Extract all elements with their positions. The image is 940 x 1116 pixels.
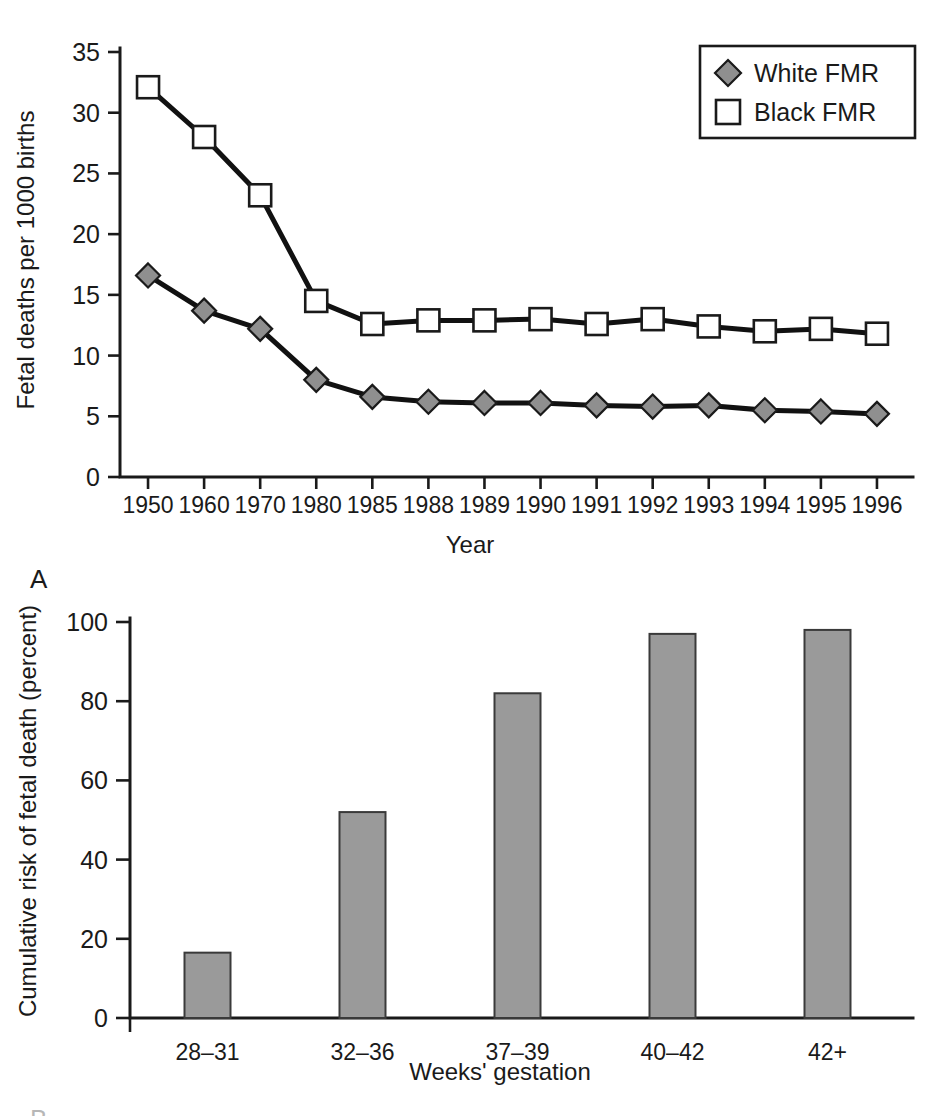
x-tick-label: 1996: [851, 492, 902, 518]
y-tick-label: 10: [72, 342, 100, 370]
bar-y-tick-label: 0: [94, 1004, 108, 1032]
data-point-black-fmr: [754, 320, 776, 342]
x-tick-label: 1993: [683, 492, 734, 518]
data-point-white-fmr: [809, 399, 833, 423]
bar-y-tick-label: 40: [80, 846, 108, 874]
data-point-black-fmr: [193, 126, 215, 148]
data-point-black-fmr: [249, 184, 271, 206]
x-tick-label: 1991: [571, 492, 622, 518]
data-point-black-fmr: [586, 313, 608, 335]
x-tick-label: 1989: [459, 492, 510, 518]
data-point-black-fmr: [642, 308, 664, 330]
data-point-white-fmr: [360, 385, 384, 409]
data-point-white-fmr: [697, 393, 721, 417]
series-line-white-fmr: [148, 275, 877, 414]
x-axis-title: Year: [446, 531, 495, 558]
bar-chart-svg: 02040608010028–3132–3637–3940–4242+ Week…: [0, 596, 940, 1112]
data-point-black-fmr: [361, 313, 383, 335]
bar-1: [185, 953, 231, 1018]
x-tick-label: 1994: [739, 492, 790, 518]
x-tick-label: 1950: [122, 492, 173, 518]
x-tick-label: 1992: [627, 492, 678, 518]
data-point-black-fmr: [530, 308, 552, 330]
y-tick-label: 15: [72, 281, 100, 309]
data-point-white-fmr: [865, 402, 889, 426]
y-tick-label: 0: [86, 463, 100, 491]
x-tick-label: 1990: [515, 492, 566, 518]
data-point-black-fmr: [137, 76, 159, 98]
line-chart-svg: 0510152025303519501960197019801985198819…: [0, 0, 940, 600]
y-tick-label: 30: [72, 99, 100, 127]
bar-x-tick-label: 32–36: [331, 1039, 395, 1065]
data-point-black-fmr: [473, 309, 495, 331]
data-point-white-fmr: [585, 393, 609, 417]
x-tick-label: 1960: [179, 492, 230, 518]
bar-5: [805, 630, 851, 1018]
legend-label-black-fmr: Black FMR: [754, 98, 876, 126]
bar-x-tick-label: 28–31: [176, 1039, 240, 1065]
bar-y-tick-label: 100: [66, 608, 108, 636]
bar-x-tick-label: 42+: [808, 1039, 847, 1065]
y-tick-label: 25: [72, 159, 100, 187]
bar-y-axis-title: Cumulative risk of fetal death (percent): [14, 605, 41, 1017]
bar-x-tick-label: 40–42: [641, 1039, 705, 1065]
x-tick-label: 1985: [347, 492, 398, 518]
bar-2: [340, 812, 386, 1018]
bar-y-tick-label: 60: [80, 766, 108, 794]
x-tick-label: 1970: [235, 492, 286, 518]
panel-a-label: A: [30, 564, 48, 594]
data-point-black-fmr: [698, 315, 720, 337]
data-point-white-fmr: [416, 390, 440, 414]
bar-y-tick-label: 20: [80, 925, 108, 953]
x-tick-label: 1980: [291, 492, 342, 518]
bar-4: [650, 634, 696, 1018]
data-point-white-fmr: [641, 395, 665, 419]
panel-b-bar-chart: 02040608010028–3132–3637–3940–4242+ Week…: [0, 596, 940, 1112]
y-tick-label: 35: [72, 38, 100, 66]
data-point-white-fmr: [192, 299, 216, 323]
x-tick-label: 1995: [795, 492, 846, 518]
data-point-black-fmr: [417, 309, 439, 331]
data-point-black-fmr: [305, 290, 327, 312]
data-point-white-fmr: [529, 391, 553, 415]
bar-x-axis-title: Weeks' gestation: [409, 1058, 591, 1085]
data-point-white-fmr: [136, 263, 160, 287]
legend-label-white-fmr: White FMR: [754, 59, 879, 87]
panel-a-line-chart: 0510152025303519501960197019801985198819…: [0, 0, 940, 600]
bar-3: [495, 693, 541, 1018]
line-chart-legend: White FMRBlack FMR: [700, 46, 915, 138]
panel-b-label: B: [30, 1104, 330, 1116]
x-tick-label: 1988: [403, 492, 454, 518]
data-point-white-fmr: [753, 398, 777, 422]
y-axis-title: Fetal deaths per 1000 births: [12, 111, 39, 410]
bar-y-tick-label: 80: [80, 687, 108, 715]
bar-chart-bars: [185, 630, 851, 1018]
legend-marker-black-fmr: [716, 100, 740, 124]
data-point-black-fmr: [866, 323, 888, 345]
data-point-black-fmr: [810, 318, 832, 340]
y-tick-label: 20: [72, 220, 100, 248]
y-tick-label: 5: [86, 402, 100, 430]
data-point-white-fmr: [472, 391, 496, 415]
